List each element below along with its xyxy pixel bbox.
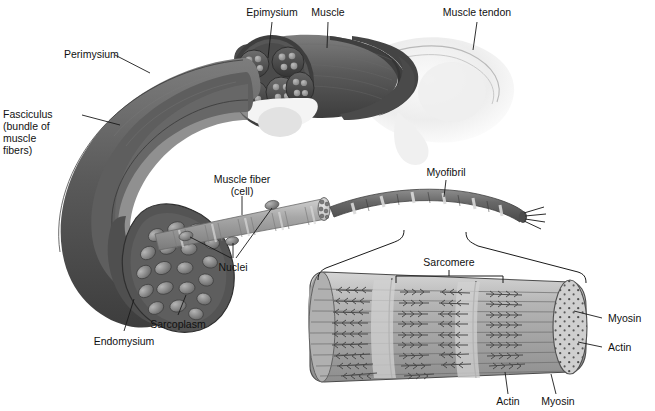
svg-text:Fasciculus: Fasciculus	[3, 108, 53, 120]
label-sarcoplasm: Sarcoplasm	[150, 318, 206, 330]
svg-text:(cell): (cell)	[231, 185, 254, 197]
label-myofibril: Myofibril	[426, 166, 465, 178]
label-actin-bottom: Actin	[496, 395, 520, 407]
label-perimysium: Perimysium	[64, 48, 119, 60]
label-myosin-right: Myosin	[608, 312, 641, 324]
label-muscle: Muscle	[311, 6, 344, 18]
svg-text:muscle: muscle	[3, 132, 36, 144]
muscle-diagram-svg: Epimysium Muscle Muscle tendon Perimysiu…	[0, 0, 655, 411]
filament-cross-section	[553, 280, 587, 374]
label-sarcomere: Sarcomere	[423, 256, 475, 268]
label-endomysium: Endomysium	[94, 335, 155, 347]
muscle-anatomy-figure: Epimysium Muscle Muscle tendon Perimysiu…	[0, 0, 655, 411]
label-nuclei: Nuclei	[218, 261, 247, 273]
sarcomere-cylinder	[308, 272, 587, 382]
svg-text:fibers): fibers)	[3, 144, 32, 156]
label-epimysium: Epimysium	[246, 6, 298, 18]
label-muscle-tendon: Muscle tendon	[443, 6, 511, 18]
svg-text:Muscle fiber: Muscle fiber	[214, 173, 271, 185]
label-myosin-bottom: Myosin	[541, 395, 574, 407]
svg-text:(bundle of: (bundle of	[3, 120, 50, 132]
label-actin-right: Actin	[608, 341, 632, 353]
